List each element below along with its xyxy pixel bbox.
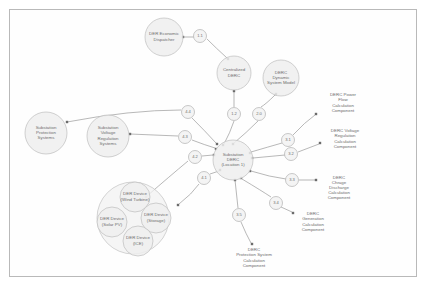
edge-edge-4-3 [130, 134, 215, 148]
edge-endpoint-marker [319, 142, 321, 144]
node-label-substation-voltage-regulation-systems: SubstationVoltageRegulationSystems [98, 125, 120, 146]
edge-label-edge-3-4[interactable]: 3.4 [270, 197, 283, 210]
edge-label-edge-1-2[interactable]: 1.2 [228, 108, 241, 121]
text-node-derc-protection-system-calculation-component[interactable]: DERCProtection SystemCalculationComponen… [236, 247, 272, 268]
edge-label-text: 4.3 [182, 134, 188, 139]
edge-label-text: 2.0 [256, 111, 262, 116]
edge-label-edge-4-3[interactable]: 4.3 [179, 131, 192, 144]
edge-endpoint-marker [66, 121, 68, 123]
text-node-derc-generation-calculation-component[interactable]: DERCGenerationCalculationComponent [302, 211, 325, 232]
edge-endpoint-marker [292, 212, 294, 214]
edge-label-edge-4-1[interactable]: 4.1 [198, 172, 211, 185]
edge-label-edge-1-1[interactable]: 1.1 [194, 30, 207, 43]
edge-endpoint-marker [251, 243, 253, 245]
edge-label-text: 3.4 [273, 200, 279, 205]
edge-label-text: 1.2 [231, 111, 237, 116]
edge-label-edge-3-2[interactable]: 3.2 [285, 148, 298, 161]
node-layer: DER EconomicDispatcherCentralizedDERCDER… [25, 18, 299, 256]
edge-label-text: 4.2 [192, 154, 198, 159]
edge-edge-3-4 [242, 179, 292, 212]
edge-label-text: 3.2 [288, 151, 294, 156]
edge-label-text: 1.1 [197, 33, 203, 38]
node-label-der-device-solar-pv: DER Device(Solar PV) [100, 217, 124, 227]
edge-label-text: 3.1 [285, 137, 291, 142]
edge-endpoint-marker [315, 179, 317, 181]
edge-label-edge-4-4[interactable]: 4.4 [182, 106, 195, 119]
edge-edge-3-3 [251, 171, 315, 180]
edge-endpoint-marker [177, 204, 179, 206]
edge-endpoint-marker [315, 113, 317, 115]
text-node-derc-power-flow-calculation-component[interactable]: DERC PowerFlowCalculationComponent [330, 92, 357, 113]
edge-label-text: 4.1 [201, 175, 207, 180]
edge-label-text: 3.3 [289, 177, 295, 182]
edge-label-text: 4.4 [185, 109, 191, 114]
diagram-graph: DER EconomicDispatcherCentralizedDERCDER… [0, 0, 427, 289]
text-node-derc-chrage-discharge-calculation-component[interactable]: DERCChrageDischargeCalculationComponent [328, 175, 351, 201]
diagram-canvas: DER EconomicDispatcherCentralizedDERCDER… [0, 0, 427, 289]
edge-label-edge-3-5[interactable]: 3.5 [233, 209, 246, 222]
edge-label-edge-3-1[interactable]: 3.1 [282, 134, 295, 147]
text-node-derc-voltage-regulation-calculation-component[interactable]: DERC VoltageRegulationCalculationCompone… [331, 128, 360, 149]
edge-label-edge-4-2[interactable]: 4.2 [189, 151, 202, 164]
edge-label-edge-2-0[interactable]: 2.0 [253, 108, 266, 121]
node-label-substation-protection-systems: SubstationProtectionSystems [36, 125, 57, 140]
edge-endpoint-marker [216, 143, 218, 145]
edge-label-text: 3.5 [236, 212, 242, 217]
node-label-der-device-storage: DER Device(Storage) [144, 213, 168, 223]
edge-label-edge-3-3[interactable]: 3.3 [286, 174, 299, 187]
node-label-der-device-wind-turbine: DER Device(Wind Turbine) [121, 192, 150, 202]
